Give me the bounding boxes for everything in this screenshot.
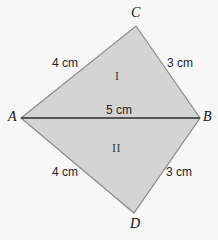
vertex-label-c: C — [131, 6, 140, 20]
measure-label-edge-ac: 4 cm — [52, 57, 78, 69]
region-label-two: II — [112, 142, 121, 154]
quadrilateral-svg — [0, 0, 218, 240]
region-label-one: I — [115, 70, 120, 82]
measure-label-edge-cb: 3 cm — [167, 57, 193, 69]
measure-label-diagonal-ab: 5 cm — [106, 104, 132, 116]
geometry-figure: A B C D 4 cm 3 cm 5 cm 4 cm 3 cm I II — [0, 0, 218, 240]
measure-label-edge-db: 3 cm — [166, 166, 192, 178]
vertex-label-d: D — [130, 217, 140, 231]
vertex-label-b: B — [203, 110, 212, 124]
measure-label-edge-ad: 4 cm — [52, 166, 78, 178]
vertex-label-a: A — [8, 110, 17, 124]
